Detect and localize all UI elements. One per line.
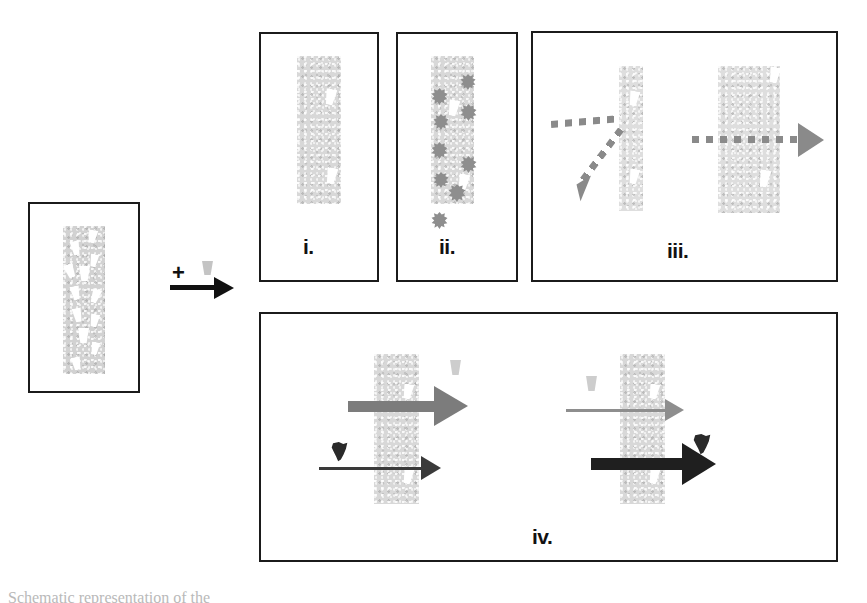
pore xyxy=(88,313,101,328)
pore xyxy=(446,99,462,117)
panel-iv: iv. xyxy=(259,312,838,562)
pore xyxy=(78,266,91,281)
source-membrane-strip xyxy=(63,226,105,374)
panel-i-label: i. xyxy=(303,236,314,257)
thin-dark-flux-arrow xyxy=(319,464,441,472)
thin-gray-flux-arrow xyxy=(566,406,684,414)
pale-cup-particle xyxy=(449,360,462,375)
pore xyxy=(77,328,90,343)
cut-off-caption: Schematic representation of the xyxy=(8,589,210,603)
arrow-shaft xyxy=(319,467,421,470)
panel-iv-label: iv. xyxy=(532,526,552,547)
reaction-arrow-right xyxy=(170,284,234,291)
arrow-head xyxy=(434,386,468,426)
membrane-strip-narrow xyxy=(619,66,643,211)
panel-ii-label: ii. xyxy=(439,236,455,257)
arrow-head xyxy=(665,399,684,421)
dark-cup-particle xyxy=(331,442,348,462)
pore xyxy=(647,383,662,400)
pore xyxy=(71,307,85,323)
pore xyxy=(89,341,101,356)
fouling-blob xyxy=(431,212,448,229)
thick-gray-flux-arrow xyxy=(348,395,468,417)
plus-sign: + xyxy=(172,262,185,284)
pore xyxy=(70,356,83,371)
pore xyxy=(88,253,100,268)
arrow-shaft xyxy=(170,285,214,290)
panel-ii: ii. xyxy=(396,32,518,282)
dotted-arrow-incoming xyxy=(551,115,621,128)
arrow-head xyxy=(214,277,234,299)
arrow-shaft xyxy=(566,409,665,412)
pore xyxy=(756,169,772,188)
membrane-strip-right xyxy=(620,354,665,504)
pore xyxy=(86,229,99,244)
pore xyxy=(69,285,83,301)
cup-particle-icon xyxy=(201,261,214,275)
panel-iii-label: iii. xyxy=(667,240,688,261)
pore xyxy=(767,66,780,84)
dotted-arrow-reflected-head xyxy=(549,163,591,202)
arrow-head xyxy=(682,443,716,485)
membrane-strip-left xyxy=(374,354,419,504)
pore xyxy=(323,88,339,106)
thick-dark-flux-arrow xyxy=(591,454,716,474)
membrane-strip xyxy=(297,56,341,204)
pore xyxy=(88,288,103,305)
panel-i: i. xyxy=(259,32,379,282)
pore xyxy=(63,262,78,279)
source-membrane-panel xyxy=(28,202,140,393)
pore xyxy=(324,167,340,185)
dotted-arrow-through xyxy=(692,136,799,143)
pore xyxy=(627,168,642,185)
arrow-head xyxy=(421,456,441,480)
pore xyxy=(627,90,642,107)
arrow-shaft xyxy=(348,401,434,412)
arrow-shaft xyxy=(591,458,682,470)
pore xyxy=(69,240,83,256)
panel-iii: iii. xyxy=(531,31,838,282)
dotted-arrow-through-head xyxy=(798,123,824,157)
pale-cup-particle xyxy=(585,376,598,391)
